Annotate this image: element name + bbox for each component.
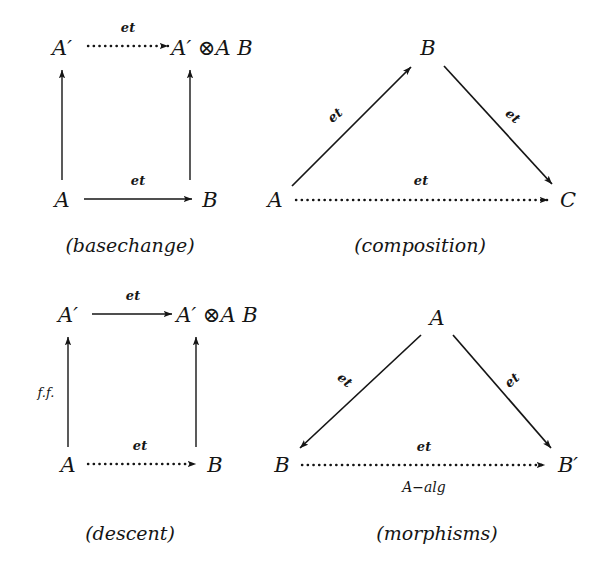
node-a-prime-descent: A′ <box>58 305 78 326</box>
caption-basechange: (basechange) <box>65 236 194 255</box>
arrow-morphisms-a-to-b-prime <box>453 335 551 448</box>
commutative-diagram-figure: A′ A′ ⊗A B A B et et (basechange) B A C … <box>0 0 607 576</box>
node-b-prime-morphisms: B′ <box>558 455 578 476</box>
node-c-composition: C <box>560 190 576 211</box>
arrow-morphisms-a-to-b <box>300 335 421 448</box>
edge-label-basechange-top: et <box>121 21 136 34</box>
edge-label-morphisms-a-alg: A−alg <box>402 480 446 494</box>
edge-label-morphisms-b-to-b-prime: et <box>417 440 432 453</box>
edge-label-composition-a-to-c: et <box>414 174 429 187</box>
node-b-basechange: B <box>202 190 217 211</box>
edge-label-descent-left-ff: f.f. <box>38 386 55 399</box>
arrow-layer <box>0 0 607 576</box>
node-a-composition: A <box>267 190 282 211</box>
node-a-descent: A <box>60 455 75 476</box>
node-a-prime-basechange: A′ <box>52 38 72 59</box>
caption-descent: (descent) <box>85 524 175 543</box>
node-a-basechange: A <box>54 190 69 211</box>
node-b-composition: B <box>420 38 435 59</box>
node-a-morphisms: A <box>429 308 444 329</box>
edge-label-basechange-bottom: et <box>131 174 146 187</box>
edge-label-descent-bottom: et <box>133 439 148 452</box>
diagram-basechange-arrows <box>62 46 192 199</box>
caption-composition: (composition) <box>354 236 486 255</box>
node-a-prime-tensor-b-descent: A′ ⊗A B <box>176 305 257 326</box>
arrow-composition-b-to-c <box>444 66 552 184</box>
node-b-descent: B <box>207 455 222 476</box>
edge-label-descent-top: et <box>126 289 141 302</box>
node-b-morphisms: B <box>274 455 289 476</box>
caption-morphisms: (morphisms) <box>376 524 497 543</box>
node-a-prime-tensor-b-basechange: A′ ⊗A B <box>171 38 252 59</box>
arrow-composition-a-to-b <box>292 67 411 186</box>
